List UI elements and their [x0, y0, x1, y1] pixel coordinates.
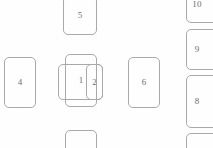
- card-1-label: 1: [79, 76, 84, 85]
- card-5-label: 5: [78, 11, 83, 20]
- card-8-label: 8: [195, 97, 200, 106]
- card-8[interactable]: 8: [186, 75, 213, 128]
- card-9-label: 9: [195, 45, 200, 54]
- card-bottom-center[interactable]: [65, 130, 97, 148]
- card-6-label: 6: [142, 78, 147, 87]
- card-canvas: 5 4 2 1 6 10 9 8: [0, 0, 213, 148]
- card-5[interactable]: 5: [63, 0, 97, 35]
- card-9[interactable]: 9: [186, 29, 213, 70]
- card-6[interactable]: 6: [128, 57, 160, 108]
- card-1[interactable]: 1: [65, 54, 97, 107]
- card-10-label: 10: [192, 0, 201, 9]
- card-10[interactable]: 10: [186, 0, 213, 23]
- card-4[interactable]: 4: [4, 57, 36, 108]
- card-4-label: 4: [18, 78, 23, 87]
- card-bottom-right[interactable]: [186, 133, 213, 148]
